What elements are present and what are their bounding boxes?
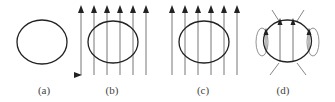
ring — [264, 20, 312, 62]
field-lines — [81, 8, 146, 75]
arrowheads — [78, 5, 149, 13]
arrowheads — [169, 5, 240, 13]
panel-label-c: (c) — [197, 84, 209, 96]
ring — [88, 21, 138, 63]
panel-label-a: (a) — [38, 84, 50, 96]
inner-field-lines — [266, 20, 309, 62]
panel-label-d: (d) — [277, 84, 290, 96]
panel-b — [78, 5, 149, 75]
ring — [17, 20, 67, 64]
ring — [179, 21, 229, 63]
panel-d — [256, 10, 319, 75]
panel-a — [17, 20, 67, 64]
panel-label-b: (b) — [106, 84, 119, 96]
field-lines — [172, 8, 237, 75]
panel-c — [169, 5, 240, 75]
